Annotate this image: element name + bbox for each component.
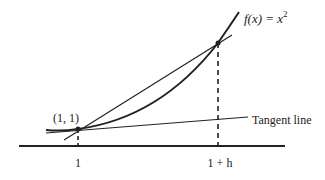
point-label: (1, 1) — [53, 111, 79, 125]
secant-tangent-diagram: f(x) = x2 (1, 1) Tangent line 1 1 + h — [0, 0, 325, 180]
tangent-line-label: Tangent line — [252, 113, 311, 127]
secant-line — [64, 35, 232, 140]
function-label: f(x) = x2 — [244, 9, 288, 26]
function-exponent: 2 — [283, 9, 288, 19]
point-1h — [216, 41, 221, 46]
x-tick-label-1h: 1 + h — [208, 156, 233, 170]
point-1-1 — [76, 127, 81, 132]
x-tick-label-1: 1 — [75, 156, 81, 170]
